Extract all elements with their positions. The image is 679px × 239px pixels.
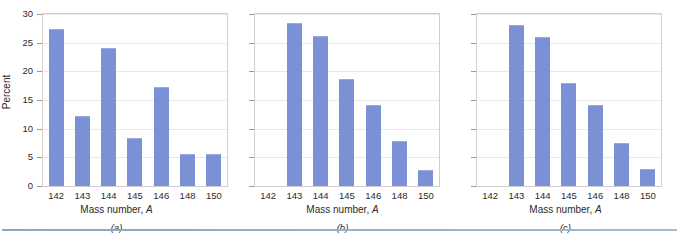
y-axis-tick bbox=[37, 100, 42, 101]
x-axis-title-symbol-b: A bbox=[372, 204, 379, 215]
y-axis-tick bbox=[37, 14, 42, 15]
x-axis-tick-label: 146 bbox=[360, 187, 386, 201]
bar-series-c bbox=[477, 14, 661, 186]
y-axis-tick bbox=[471, 129, 476, 130]
x-axis-title-symbol-a: A bbox=[146, 204, 153, 215]
x-axis-title-a: Mass number, A bbox=[0, 204, 233, 215]
bar-slot bbox=[413, 14, 439, 186]
x-axis-tick-label: 143 bbox=[503, 187, 529, 201]
y-axis-tick bbox=[37, 71, 42, 72]
bar bbox=[418, 170, 433, 186]
figure-container: Percent 051015202530 1421431441451461481… bbox=[0, 0, 679, 239]
x-axis-tick-label: 150 bbox=[635, 187, 661, 201]
bar bbox=[206, 154, 221, 186]
bar bbox=[640, 169, 655, 186]
x-axis-tick-label: 142 bbox=[43, 187, 69, 201]
plot-area-a: 051015202530 142143144145146148150 bbox=[42, 13, 228, 187]
bar-slot bbox=[334, 14, 360, 186]
panel-caption-b: (b) bbox=[233, 222, 452, 233]
bar bbox=[127, 138, 142, 186]
x-axis-ticks-c: 142143144145146148150 bbox=[477, 187, 661, 201]
x-axis-tick-label: 150 bbox=[413, 187, 439, 201]
y-axis-tick bbox=[471, 157, 476, 158]
bar-slot bbox=[43, 14, 69, 186]
bar-slot bbox=[122, 14, 148, 186]
x-axis-tick-label: 143 bbox=[281, 187, 307, 201]
y-axis-tick-label: 0 bbox=[28, 181, 33, 191]
y-axis-tick bbox=[37, 157, 42, 158]
x-axis-tick-label: 148 bbox=[386, 187, 412, 201]
bar-slot bbox=[608, 14, 634, 186]
x-axis-tick-label: 145 bbox=[556, 187, 582, 201]
bar bbox=[614, 143, 629, 186]
x-axis-title-text-b: Mass number, bbox=[306, 204, 369, 215]
bar-slot bbox=[360, 14, 386, 186]
x-axis-tick-label: 144 bbox=[308, 187, 334, 201]
panel-caption-a: (a) bbox=[0, 222, 233, 233]
y-axis-tick bbox=[37, 43, 42, 44]
bar bbox=[535, 37, 550, 186]
x-axis-tick-label: 144 bbox=[530, 187, 556, 201]
y-axis-tick-label: 20 bbox=[22, 67, 33, 77]
chart-panel-b: 142143144145146148150 Mass number, A bbox=[233, 0, 452, 222]
y-axis-tick-label: 10 bbox=[22, 124, 33, 134]
y-axis-tick bbox=[249, 43, 254, 44]
x-axis-title-b: Mass number, A bbox=[233, 204, 452, 215]
x-axis-tick-label: 142 bbox=[477, 187, 503, 201]
bar-slot bbox=[174, 14, 200, 186]
x-axis-tick-label: 148 bbox=[608, 187, 634, 201]
y-axis-title-a: Percent bbox=[1, 75, 12, 109]
bar-series-a bbox=[43, 14, 227, 186]
y-axis-tick bbox=[471, 100, 476, 101]
x-axis-title-c: Mass number, A bbox=[452, 204, 679, 215]
y-axis-tick-label: 15 bbox=[22, 95, 33, 105]
x-axis-ticks-b: 142143144145146148150 bbox=[255, 187, 439, 201]
bar-slot bbox=[201, 14, 227, 186]
y-axis-tick bbox=[249, 100, 254, 101]
bar-slot bbox=[635, 14, 661, 186]
x-axis-tick-label: 143 bbox=[69, 187, 95, 201]
bar-slot bbox=[477, 14, 503, 186]
y-axis-tick-label: 30 bbox=[22, 9, 33, 19]
bar bbox=[339, 79, 354, 186]
x-axis-ticks-a: 142143144145146148150 bbox=[43, 187, 227, 201]
y-axis-tick bbox=[249, 71, 254, 72]
x-axis-title-symbol-c: A bbox=[595, 204, 602, 215]
bar bbox=[313, 36, 328, 186]
y-axis-tick-label: 5 bbox=[28, 153, 33, 163]
y-axis-tick bbox=[37, 129, 42, 130]
bar-slot bbox=[148, 14, 174, 186]
plot-area-c: 142143144145146148150 bbox=[476, 13, 662, 187]
bar-slot bbox=[582, 14, 608, 186]
x-axis-title-text-c: Mass number, bbox=[529, 204, 592, 215]
bar-slot bbox=[556, 14, 582, 186]
x-axis-tick-label: 150 bbox=[201, 187, 227, 201]
y-axis-tick-label: 25 bbox=[22, 38, 33, 48]
x-axis-tick-label: 146 bbox=[582, 187, 608, 201]
x-axis-tick-label: 146 bbox=[148, 187, 174, 201]
bar bbox=[287, 23, 302, 186]
panel-caption-c: (c) bbox=[452, 222, 679, 233]
bar bbox=[588, 105, 603, 186]
y-axis-tick bbox=[471, 14, 476, 15]
x-axis-tick-label: 148 bbox=[174, 187, 200, 201]
y-axis-tick bbox=[249, 14, 254, 15]
horizontal-rule bbox=[2, 229, 677, 231]
bar-slot bbox=[281, 14, 307, 186]
bar-series-b bbox=[255, 14, 439, 186]
panels-row: Percent 051015202530 1421431441451461481… bbox=[0, 0, 679, 222]
x-axis-tick-label: 144 bbox=[96, 187, 122, 201]
plot-area-b: 142143144145146148150 bbox=[254, 13, 440, 187]
bar bbox=[180, 154, 195, 186]
chart-panel-c: 142143144145146148150 Mass number, A bbox=[452, 0, 679, 222]
bar bbox=[75, 116, 90, 186]
y-axis-tick bbox=[249, 157, 254, 158]
bar bbox=[366, 105, 381, 186]
bar-slot bbox=[530, 14, 556, 186]
y-axis-tick bbox=[471, 43, 476, 44]
bar-slot bbox=[96, 14, 122, 186]
x-axis-tick-label: 145 bbox=[122, 187, 148, 201]
y-axis-tick bbox=[249, 129, 254, 130]
bar-slot bbox=[69, 14, 95, 186]
y-axis-tick bbox=[471, 71, 476, 72]
